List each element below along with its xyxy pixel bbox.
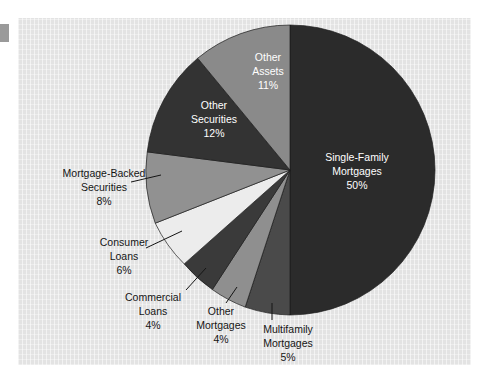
label-value: 6% [116,264,131,276]
label-line-2: Securities [81,181,127,193]
pie-label-commercial-loans: Commercial Loans 4% [125,291,181,331]
label-value: 8% [96,195,111,207]
label-line-1: Other [255,51,282,63]
label-line-1: Commercial [125,291,181,303]
label-value: 50% [346,179,367,191]
label-line-2: Securities [191,113,237,125]
label-line-1: Consumer [100,236,149,248]
label-line-2: Assets [252,65,284,77]
label-line-2: Loans [110,250,139,262]
label-line-1: Other [208,305,235,317]
label-line-1: Other [201,99,228,111]
label-line-2: Loans [139,305,168,317]
pie-label-consumer-loans: Consumer Loans 6% [100,236,149,276]
pie-chart: Single-Family Mortgages 50% Other Securi… [0,0,491,381]
label-line-2: Mortgages [196,319,246,331]
label-value: 5% [280,351,295,363]
label-line-1: Multifamily [263,323,313,335]
label-value: 4% [213,333,228,345]
pie-label-other-mortgages: Other Mortgages 4% [196,305,246,345]
pie-label-mortgage-backed-securities: Mortgage-Backed Securities 8% [63,167,146,207]
label-value: 11% [258,79,278,91]
label-line-2: Mortgages [332,165,382,177]
label-value: 4% [145,319,160,331]
pie-label-multifamily-mortgages: Multifamily Mortgages 5% [263,323,313,363]
label-line-1: Single-Family [325,151,389,163]
label-value: 12% [203,127,224,139]
label-line-1: Mortgage-Backed [63,167,146,179]
label-line-2: Mortgages [263,337,313,349]
